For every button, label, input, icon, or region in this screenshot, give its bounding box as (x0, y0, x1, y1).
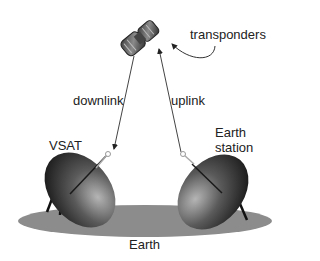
earth-station-label-line2: station (215, 140, 253, 155)
uplink-label: uplink (171, 93, 205, 108)
downlink-label: downlink (73, 93, 124, 108)
satellite-icon (119, 18, 161, 58)
transponders-label: transponders (190, 27, 266, 42)
vsat-label: VSAT (49, 138, 82, 153)
earth-station-label-line1: Earth (215, 125, 246, 140)
earth-label: Earth (129, 237, 160, 252)
transponders-pointer (172, 44, 215, 58)
